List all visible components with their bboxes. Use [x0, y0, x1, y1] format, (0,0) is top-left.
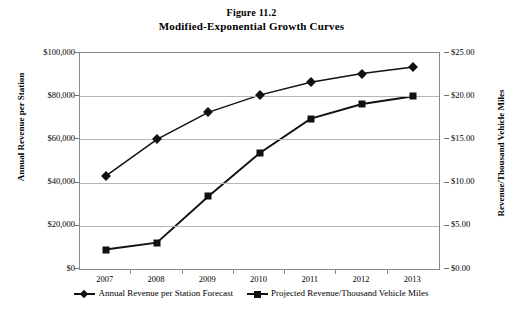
data-point-square [410, 93, 417, 100]
y-axis-right-tick-label: $15.00 [451, 134, 501, 143]
y-axis-left-tick-label: $20,000 [17, 220, 75, 229]
square-marker-icon [247, 289, 268, 298]
figure-title-block: Figure 11.2 Modified-Exponential Growth … [0, 6, 503, 33]
data-point-square [102, 246, 109, 253]
gridline [80, 226, 439, 227]
y-axis-right-tickmark [444, 182, 449, 183]
y-axis-left-tick-label: $60,000 [17, 134, 75, 143]
legend-item-annual-revenue[interactable]: Annual Revenue per Station Forecast [74, 288, 232, 299]
data-point-square [153, 239, 160, 246]
x-axis-tickmark [130, 270, 131, 274]
data-point-square [256, 150, 263, 157]
series-line [106, 67, 414, 176]
y-axis-right-tickmark [444, 52, 449, 53]
x-axis-tick-label: 2012 [341, 274, 381, 284]
x-axis-tick-label: 2013 [392, 274, 432, 284]
figure-number: Figure 11.2 [0, 6, 503, 19]
y-axis-right-ticks: $0.00$5.00$10.00$15.00$20.00$25.00 [444, 52, 494, 270]
legend-label: Annual Revenue per Station Forecast [98, 288, 232, 299]
y-axis-left-tick-label: $80,000 [17, 91, 75, 100]
y-axis-right-tick-label: $20.00 [451, 91, 501, 100]
y-axis-right-tick-label: $25.00 [451, 48, 501, 57]
x-axis-tick-label: 2009 [187, 274, 227, 284]
data-point-square [205, 193, 212, 200]
gridline [80, 183, 439, 184]
x-axis-tickmark [233, 270, 234, 274]
chart-legend: Annual Revenue per Station Forecast Proj… [0, 288, 503, 299]
data-point-square [359, 100, 366, 107]
diamond-marker-icon [74, 289, 95, 298]
x-axis-tickmark [387, 270, 388, 274]
x-axis-tick-label: 2007 [85, 274, 125, 284]
data-point-square [307, 115, 314, 122]
y-axis-left-tick-label: $40,000 [17, 177, 75, 186]
x-axis-tick-label: 2011 [290, 274, 330, 284]
plot-area [79, 52, 440, 270]
series-lines [80, 53, 439, 269]
y-axis-right-tick-label: $0.00 [451, 264, 501, 273]
y-axis-left-ticks: $0$20,000$40,000$60,000$80,000$100,000 [14, 52, 75, 270]
figure-title: Modified-Exponential Growth Curves [0, 19, 503, 33]
x-axis-tick-label: 2010 [239, 274, 279, 284]
x-axis-tick-label: 2008 [136, 274, 176, 284]
y-axis-right-tick-label: $10.00 [451, 177, 501, 186]
y-axis-left-tick-label: $0 [17, 264, 75, 273]
y-axis-right-tickmark [444, 225, 449, 226]
x-axis-tickmark [182, 270, 183, 274]
y-axis-right-tickmark [444, 268, 449, 269]
legend-item-projected-revenue[interactable]: Projected Revenue/Thousand Vehicle Miles [247, 288, 429, 299]
y-axis-left-tick-label: $100,000 [17, 48, 75, 57]
x-axis-tickmark [284, 270, 285, 274]
y-axis-right-tickmark [444, 95, 449, 96]
legend-label: Projected Revenue/Thousand Vehicle Miles [271, 288, 429, 299]
y-axis-right-tickmark [444, 138, 449, 139]
gridline [80, 139, 439, 140]
x-axis-tickmark [335, 270, 336, 274]
y-axis-right-tick-label: $5.00 [451, 220, 501, 229]
